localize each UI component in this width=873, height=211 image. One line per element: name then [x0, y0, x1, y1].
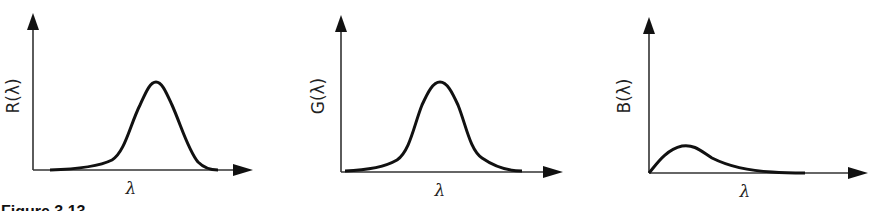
- y-axis-label: G(λ): [308, 78, 328, 115]
- x-axis-label: λ: [434, 180, 446, 200]
- x-axis-arrow-icon: [848, 167, 868, 179]
- x-axis-arrow-icon: [543, 166, 563, 178]
- panel-green-response: G(λ) λ: [308, 15, 563, 200]
- y-axis-label: R(λ): [3, 78, 23, 113]
- x-axis-label: λ: [125, 178, 137, 198]
- blue-response-curve: [649, 146, 805, 173]
- y-axis-label: B(λ): [614, 79, 634, 114]
- y-axis-arrow-icon: [335, 15, 347, 32]
- figure-canvas: R(λ) λ G(λ) λ B(λ) λ Figure 3.13: [0, 0, 873, 211]
- panel-red-response: R(λ) λ: [3, 13, 253, 198]
- x-axis-arrow-icon: [233, 164, 253, 176]
- x-axis-label: λ: [739, 181, 751, 201]
- green-response-curve: [345, 82, 522, 171]
- red-response-curve: [50, 82, 218, 170]
- figure-caption: Figure 3.13: [1, 203, 86, 211]
- y-axis-arrow-icon: [643, 17, 655, 34]
- panel-blue-response: B(λ) λ: [614, 17, 868, 201]
- y-axis-arrow-icon: [27, 13, 39, 30]
